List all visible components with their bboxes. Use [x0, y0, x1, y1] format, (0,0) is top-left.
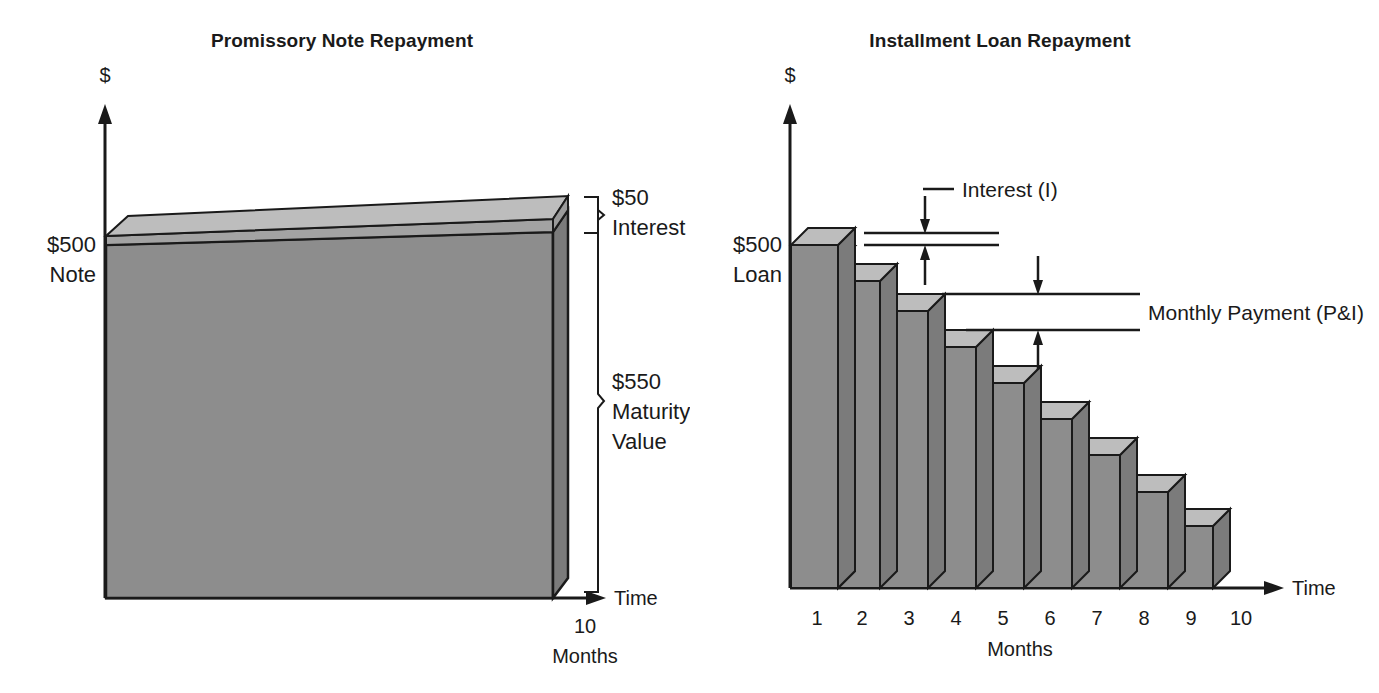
x-tick-7: 7	[1091, 607, 1102, 629]
figure-canvas: Promissory Note Repayment $	[0, 0, 1379, 693]
interest-brace	[584, 197, 604, 233]
interest-annotation-label: Interest (I)	[962, 178, 1058, 201]
x-tick-10: 10	[1230, 607, 1252, 629]
page-title: Installment Loan Repayment	[869, 30, 1131, 51]
interest-brace-label: $50 Interest	[612, 185, 685, 240]
maturity-value: $550	[612, 369, 661, 394]
x-tick-3: 3	[903, 607, 914, 629]
x-tick-6: 6	[1044, 607, 1055, 629]
x-tick-1: 1	[811, 607, 822, 629]
x-unit-label: Months	[987, 638, 1053, 660]
interest-caption: Interest	[612, 215, 685, 240]
monthly-payment-annotation-label: Monthly Payment (P&I)	[1148, 301, 1364, 324]
x-tick-8: 8	[1138, 607, 1149, 629]
principal-label: $500 Note	[47, 232, 96, 287]
x-tick-2: 2	[856, 607, 867, 629]
installment-loan-chart: Installment Loan Repayment $	[690, 0, 1379, 693]
maturity-brace	[584, 197, 604, 592]
principal-value: $500	[47, 232, 96, 257]
x-tick-4: 4	[950, 607, 961, 629]
maturity-brace-label: $550 Maturity Value	[612, 369, 690, 454]
principal-label: $500 Loan	[733, 232, 782, 287]
y-axis-label: $	[784, 64, 795, 86]
x-axis-label: Time	[1292, 577, 1336, 599]
principal-caption: Note	[50, 262, 96, 287]
interest-value: $50	[612, 185, 649, 210]
x-tick-10: 10	[574, 615, 596, 637]
principal-caption: Loan	[733, 262, 782, 287]
bar-month-1	[791, 228, 855, 588]
x-unit-label: Months	[552, 645, 618, 667]
maturity-caption-1: Maturity	[612, 399, 690, 424]
maturity-caption-2: Value	[612, 429, 667, 454]
x-tick-labels: 1 2 3 4 5 6 7 8 9 10	[811, 607, 1252, 629]
loan-balance-bars	[791, 228, 1230, 588]
x-axis-label: Time	[614, 587, 658, 609]
note-slab-3d	[106, 196, 568, 598]
page-title: Promissory Note Repayment	[211, 30, 474, 51]
monthly-payment-annotation: Monthly Payment (P&I)	[942, 256, 1364, 370]
x-tick-9: 9	[1185, 607, 1196, 629]
x-tick-5: 5	[997, 607, 1008, 629]
y-axis-label: $	[99, 64, 110, 86]
principal-value: $500	[733, 232, 782, 257]
promissory-note-chart: Promissory Note Repayment $	[0, 0, 690, 693]
